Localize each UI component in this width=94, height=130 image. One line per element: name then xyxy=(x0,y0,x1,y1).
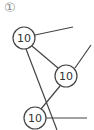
tree-diagram: 10 10 10 xyxy=(0,0,94,130)
edge-a-b xyxy=(32,46,58,68)
node-b-label: 10 xyxy=(59,70,73,83)
edge-a-open-right xyxy=(35,27,73,35)
node-a-label: 10 xyxy=(17,32,31,45)
edge-b-open-right xyxy=(75,45,91,68)
node-c-label: 10 xyxy=(28,112,42,125)
edge-b-c xyxy=(41,86,60,109)
